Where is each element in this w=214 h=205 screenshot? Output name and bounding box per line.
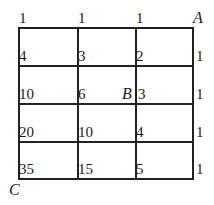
grid-line-h1 xyxy=(18,65,194,67)
grid-line-h0 xyxy=(18,27,194,29)
edge-count: 1 xyxy=(196,162,204,177)
point-label-a: A xyxy=(193,10,203,26)
top-count-1: 1 xyxy=(78,11,86,26)
cell-count: 6 xyxy=(78,87,86,102)
cell-count: 3 xyxy=(78,49,86,64)
grid-line-v3 xyxy=(192,27,194,180)
cell-count: 10 xyxy=(19,87,34,102)
grid-line-h2 xyxy=(18,103,194,105)
edge-count: 1 xyxy=(196,87,204,102)
top-count-0: 1 xyxy=(19,11,27,26)
cell-count: 10 xyxy=(78,125,93,140)
cell-count: 4 xyxy=(136,125,144,140)
point-label-c: C xyxy=(9,182,20,198)
cell-count: 3 xyxy=(138,87,146,102)
grid-line-h3 xyxy=(18,141,194,143)
cell-count: 35 xyxy=(19,162,34,177)
cell-count: 2 xyxy=(136,49,144,64)
cell-count: 20 xyxy=(19,125,34,140)
cell-count: 4 xyxy=(19,49,27,64)
edge-count: 1 xyxy=(196,49,204,64)
grid-line-h4 xyxy=(18,178,194,180)
cell-count: 15 xyxy=(78,162,93,177)
point-label-b: B xyxy=(122,86,132,102)
edge-count: 1 xyxy=(196,125,204,140)
top-count-2: 1 xyxy=(136,11,144,26)
cell-count: 5 xyxy=(136,162,144,177)
